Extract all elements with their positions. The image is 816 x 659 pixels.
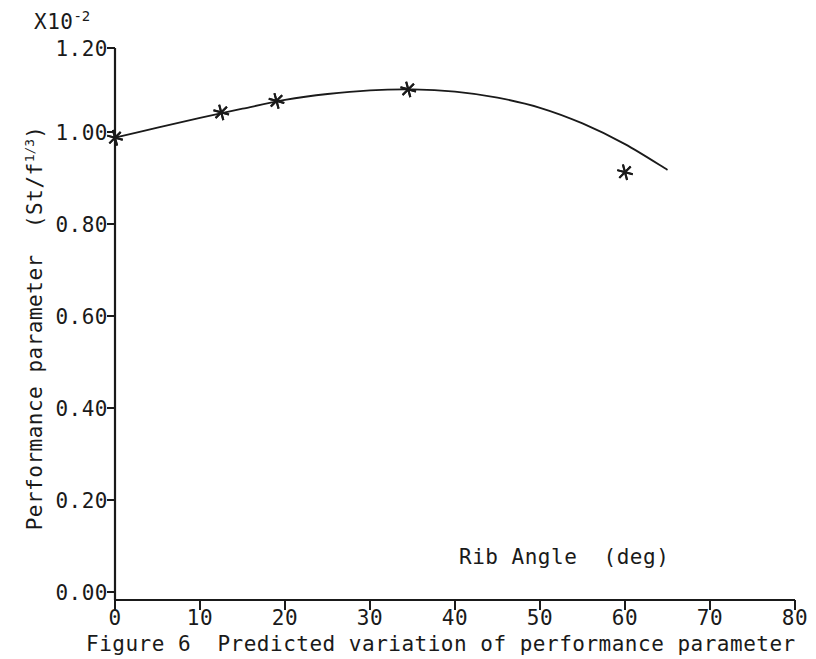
x-tick-label-40: 40 xyxy=(432,606,478,630)
x-axis-title: Rib Angle (deg) xyxy=(459,545,669,569)
x-tick-label-50: 50 xyxy=(517,606,563,630)
x-tick-label-60: 60 xyxy=(602,606,648,630)
x-tick-label-0: 0 xyxy=(92,606,138,630)
x-tick-label-10: 10 xyxy=(177,606,223,630)
figure-caption: Figure 6 Predicted variation of performa… xyxy=(86,632,796,656)
x-tick-label-20: 20 xyxy=(262,606,308,630)
x-tick-label-80: 80 xyxy=(772,606,816,630)
y-axis-title-wrapper: Performance parameter (St/f1/3) xyxy=(22,68,52,588)
multiplier-base: X10 xyxy=(34,10,73,34)
chart-plot-area xyxy=(0,0,816,659)
data-point-marker xyxy=(617,164,632,179)
y-axis-title-exponent: 1/3 xyxy=(22,139,37,162)
y-axis-multiplier-label: X10-2 xyxy=(34,8,90,34)
axis-lines xyxy=(115,48,795,600)
y-axis-title-tail: ) xyxy=(23,126,47,139)
multiplier-exponent: -2 xyxy=(73,8,90,24)
figure-container: X10-2 1.20 1.00 0.80 0.60 0.40 0.20 0.00… xyxy=(0,0,816,659)
y-tick-label-1.20: 1.20 xyxy=(36,37,108,61)
y-axis-title: Performance parameter (St/f1/3) xyxy=(22,126,47,531)
x-tick-label-30: 30 xyxy=(347,606,393,630)
y-axis-title-main: Performance parameter (St/f xyxy=(23,162,47,530)
y-tick-marks xyxy=(107,48,115,592)
data-point-markers xyxy=(107,82,632,180)
data-curve xyxy=(115,89,668,170)
x-tick-label-70: 70 xyxy=(687,606,733,630)
